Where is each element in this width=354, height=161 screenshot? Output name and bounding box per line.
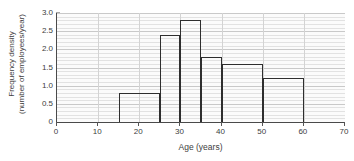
gridline-minor-horizontal xyxy=(57,24,345,25)
x-tick-mark xyxy=(221,122,222,126)
gridline-minor-horizontal xyxy=(57,53,345,54)
x-tick-mark xyxy=(303,122,304,126)
gridline-vertical xyxy=(304,13,305,122)
gridline-minor-horizontal xyxy=(57,17,345,18)
histogram-bar xyxy=(180,20,201,122)
y-tick-label: 1.5 xyxy=(42,64,53,72)
x-tick-mark xyxy=(138,122,139,126)
gridline-minor-horizontal xyxy=(57,20,345,21)
gridline-major-horizontal xyxy=(57,31,345,32)
x-tick-label: 30 xyxy=(175,127,184,136)
x-tick-mark xyxy=(97,122,98,126)
x-tick-label: 0 xyxy=(54,127,58,136)
histogram-bar xyxy=(119,93,160,122)
y-axis-title-line-1: Frequency density xyxy=(7,14,17,114)
y-axis-title: Frequency density (number of employees/y… xyxy=(0,0,34,128)
histogram-bar xyxy=(222,64,263,122)
y-tick-label: 2.0 xyxy=(42,45,53,53)
plot-area xyxy=(56,13,345,122)
gridline-minor-horizontal xyxy=(57,42,345,43)
x-tick-label: 50 xyxy=(257,127,266,136)
plot-inner xyxy=(57,13,345,122)
gridline-minor-horizontal xyxy=(57,46,345,47)
gridline-major-horizontal xyxy=(57,49,345,50)
x-axis-line xyxy=(56,122,345,123)
y-axis-ticks: 00.51.01.52.02.53.0 xyxy=(34,0,56,161)
x-tick-mark xyxy=(56,122,57,126)
histogram-bar xyxy=(160,35,181,122)
y-tick-label: 0 xyxy=(49,118,53,126)
x-tick-label: 20 xyxy=(134,127,143,136)
histogram-bar xyxy=(263,78,304,122)
y-tick-label: 0.5 xyxy=(42,100,53,108)
x-tick-mark xyxy=(344,122,345,126)
x-tick-label: 10 xyxy=(93,127,102,136)
x-tick-label: 40 xyxy=(216,127,225,136)
gridline-minor-horizontal xyxy=(57,28,345,29)
gridline-major-horizontal xyxy=(57,13,345,14)
gridline-vertical xyxy=(98,13,99,122)
x-tick-mark xyxy=(179,122,180,126)
histogram-bar xyxy=(201,57,222,122)
x-tick-label: 60 xyxy=(298,127,307,136)
y-axis-title-line-2: (number of employees/year) xyxy=(17,14,27,114)
y-tick-label: 3.0 xyxy=(42,9,53,17)
y-tick-label: 2.5 xyxy=(42,27,53,35)
x-axis-title: Age (years) xyxy=(56,142,345,152)
x-tick-label: 70 xyxy=(340,127,349,136)
histogram-figure: Frequency density (number of employees/y… xyxy=(0,0,354,161)
x-tick-mark xyxy=(262,122,263,126)
gridline-minor-horizontal xyxy=(57,35,345,36)
gridline-minor-horizontal xyxy=(57,38,345,39)
y-tick-label: 1.0 xyxy=(42,82,53,90)
